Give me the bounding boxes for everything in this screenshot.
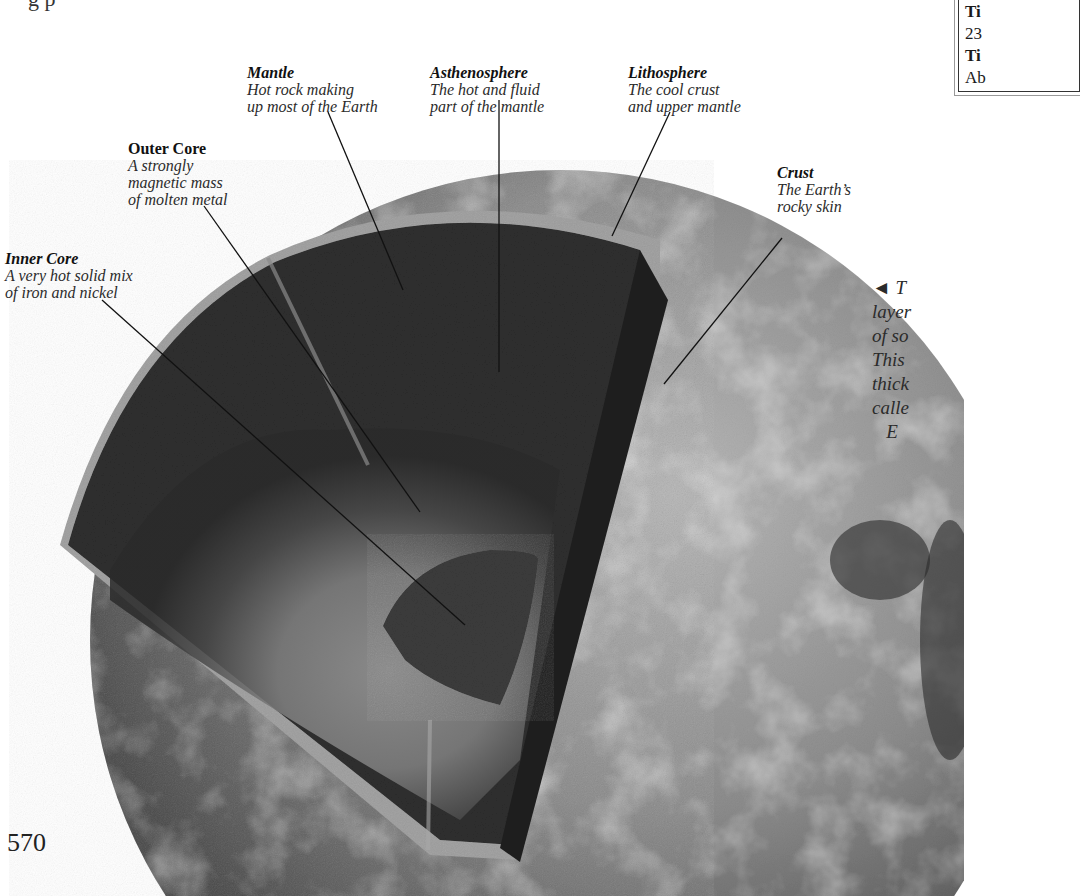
label-outer-core: Outer Core A strongly magnetic mass of m… [128, 140, 228, 208]
label-lithosphere: Lithosphere The cool crust and upper man… [628, 64, 741, 115]
label-mantle: Mantle Hot rock making up most of the Ea… [247, 64, 378, 115]
sidebar-line: Ab [965, 67, 986, 89]
label-description: The Earth’s rocky skin [777, 181, 851, 215]
label-inner-core: Inner Core A very hot solid mix of iron … [5, 250, 133, 301]
label-description: A strongly magnetic mass of molten metal [128, 157, 228, 208]
label-title: Crust [777, 164, 851, 181]
label-description: The hot and fluid part of the mantle [430, 81, 544, 115]
label-asthenosphere: Asthenosphere The hot and fluid part of … [430, 64, 544, 115]
sidebar-line: 23 [965, 23, 982, 45]
sidebar-line: Ti [965, 45, 981, 67]
label-description: Hot rock making up most of the Earth [247, 81, 378, 115]
core-seam [428, 720, 430, 850]
label-title: Outer Core [128, 140, 228, 157]
label-title: Asthenosphere [430, 64, 544, 81]
label-title: Inner Core [5, 250, 133, 267]
sidebar-line: Ti [965, 1, 981, 23]
page-number: 570 [7, 828, 46, 858]
label-crust: Crust The Earth’s rocky skin [777, 164, 851, 215]
label-title: Mantle [247, 64, 378, 81]
label-title: Lithosphere [628, 64, 741, 81]
info-sidebar-box: Ti 23 Ti Ab [958, 0, 1080, 92]
label-description: The cool crust and upper mantle [628, 81, 741, 115]
side-caption: ◄ T layer of so This thick calle E [872, 276, 911, 444]
label-description: A very hot solid mix of iron and nickel [5, 267, 133, 301]
